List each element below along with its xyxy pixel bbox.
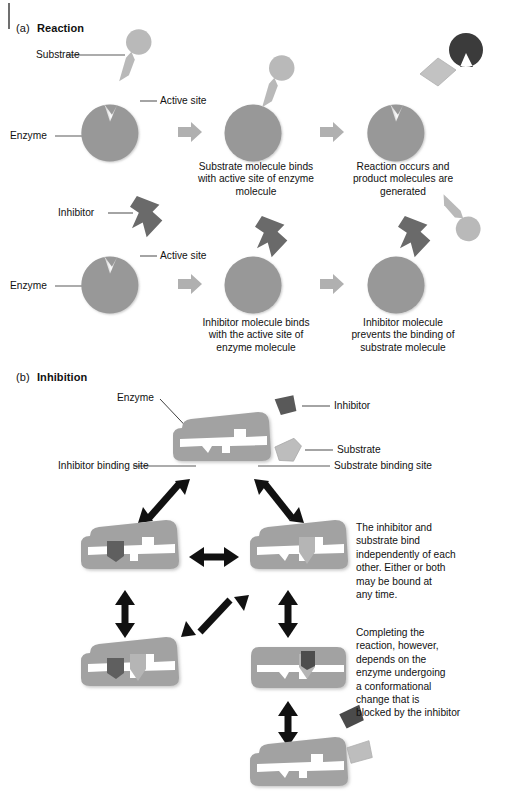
label-enzyme: Enzyme [10,130,47,142]
caption-line: substrate molecule [333,342,473,354]
label-active-site: Active site [160,95,206,107]
note-line: any time. [356,588,506,601]
arrowhead [189,547,204,567]
legend-inhibitor-icon [275,393,299,416]
note-line: independently of each [356,548,506,561]
enzyme-shape [81,256,138,313]
arrowhead [278,701,298,716]
state-free-enzyme [173,412,271,461]
substrate-shape-unbound [429,194,488,245]
legend-substrate-icon [274,437,306,466]
panel-a-row1-graphics [55,29,483,161]
note-line: reaction, however, [356,639,506,652]
state-products-released [250,737,348,786]
note-line: change that is [356,693,506,706]
caption-line: Reaction occurs and [335,161,471,173]
note-line: other. Either or both [356,561,506,574]
panel-a-row2-graphics [55,194,488,313]
inhibitor-shape-bound [398,216,430,257]
process-arrow-3 [178,274,202,294]
arrow-state1-to-inhibitor [149,484,179,518]
inhibitor-shape [130,196,162,237]
figure-canvas: (a) Reaction (b) Inhibition [0,0,508,800]
inhibitor-shape-bound [255,216,287,257]
caption-line: with active site of enzyme [186,173,326,185]
enzyme-shape [224,256,281,313]
enzyme-shape [224,104,281,161]
note-line: substrate bind [356,534,506,547]
enzyme-shape [367,104,424,161]
enzyme-shape [81,104,138,161]
arrow-state1-to-substrate [265,484,292,518]
label-inhibitor-b: Inhibitor [334,400,370,412]
label-active-site: Active site [160,250,206,262]
state-substrate-bound-closed [251,647,346,688]
label-substrate-b: Substrate [337,444,381,456]
enzyme-shape [367,256,424,313]
note-line: a conformational [356,680,506,693]
note-conformational-change: Completing the reaction, however, depend… [356,626,506,720]
caption-line: with the active site of [186,329,326,341]
caption-line: Inhibitor molecule [333,317,473,329]
caption-substrate-binds: Substrate molecule binds with active sit… [186,161,326,198]
note-line: The inhibitor and [356,521,506,534]
arrowhead [115,623,135,638]
note-independent-binding: The inhibitor and substrate bind indepen… [356,521,506,601]
label-inhibitor: Inhibitor [58,207,94,219]
arrowhead [115,590,135,605]
arrowhead [278,590,298,605]
released-substrate-icon [346,741,374,765]
note-line: may be bound at [356,575,506,588]
state-both-bound-open [81,637,179,686]
caption-line: generated [335,186,471,198]
substrate-shape-bound [262,55,294,107]
note-line: depends on the [356,653,506,666]
state-inhibitor-bound [81,520,179,569]
product-dark-shape [449,33,483,67]
panel-b-graphics [81,393,374,786]
arrowhead [234,595,249,611]
arrowhead [224,547,239,567]
product-light-shape [420,58,456,86]
process-arrow-1 [178,122,202,142]
caption-inhibitor-prevents: Inhibitor molecule prevents the binding … [333,317,473,354]
note-line: blocked by the inhibitor [356,706,506,719]
label-enzyme-b: Enzyme [117,392,154,404]
process-arrow-2 [320,122,344,142]
arrowhead [181,621,196,637]
caption-line: enzyme molecule [186,342,326,354]
caption-line: prevents the binding of [333,329,473,341]
arrow-diagonal [200,600,230,632]
caption-line: molecule [186,186,326,198]
note-line: enzyme undergoing [356,666,506,679]
caption-line: product molecules are [335,173,471,185]
note-line: Completing the [356,626,506,639]
process-arrow-4 [320,274,344,294]
label-substrate: Substrate [36,49,80,61]
label-substrate-binding-site: Substrate binding site [334,460,432,472]
label-inhibitor-binding-site: Inhibitor binding site [58,460,149,472]
caption-inhibitor-binds: Inhibitor molecule binds with the active… [186,317,326,354]
state-substrate-bound [250,520,348,569]
caption-line: Inhibitor molecule binds [186,317,326,329]
arrowhead [278,623,298,638]
caption-reaction-occurs: Reaction occurs and product molecules ar… [335,161,471,198]
caption-line: Substrate molecule binds [186,161,326,173]
label-enzyme: Enzyme [10,280,47,292]
